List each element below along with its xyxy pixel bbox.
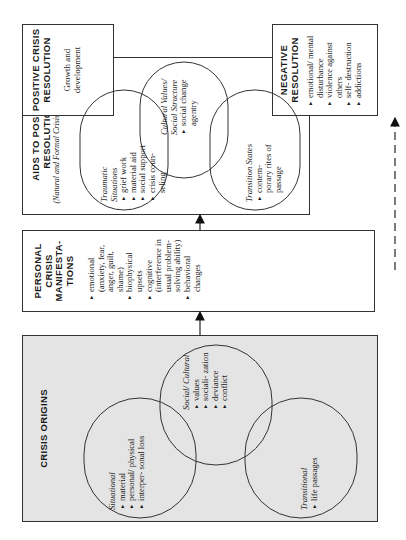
traumatic-label: Traumatic Situations bbox=[100, 144, 119, 202]
list-item: crisis coun- seling bbox=[148, 144, 167, 202]
diagram-shapes bbox=[0, 0, 406, 540]
transitional-list: life passages bbox=[310, 440, 320, 510]
dashed-arrow-to-negative bbox=[391, 118, 399, 270]
list-item: social change agentry bbox=[179, 75, 198, 135]
social-cultural-group: Social/ Cultural values sociali- zation … bbox=[182, 350, 230, 410]
list-item: contem- porary rites of passage bbox=[255, 142, 284, 202]
cultural-label: Cultural Values/ Social Structure bbox=[160, 75, 179, 135]
traumatic-list: grief work material aid social support c… bbox=[119, 144, 167, 202]
transition-states-group: Transition States contem- porary rites o… bbox=[245, 142, 283, 202]
transitional-group: Transitional life passages bbox=[300, 440, 319, 510]
situational-list: material personal/ physical interper- so… bbox=[118, 430, 147, 510]
transition-states-list: contem- porary rites of passage bbox=[255, 142, 284, 202]
list-item: conflict bbox=[220, 350, 230, 410]
cultural-group: Cultural Values/ Social Structure social… bbox=[160, 75, 198, 135]
list-item: life passages bbox=[310, 440, 320, 510]
cultural-list: social change agentry bbox=[179, 75, 198, 135]
crisis-paradigm-diagram: CRISIS ORIGINS PERSONAL CRISIS MANIFESTA… bbox=[0, 0, 406, 540]
list-item: interper- sonal loss bbox=[137, 430, 147, 510]
social-cultural-list: values sociali- zation deviance conflict bbox=[192, 350, 230, 410]
situational-group: Situational material personal/ physical … bbox=[108, 430, 146, 510]
traumatic-group: Traumatic Situations grief work material… bbox=[100, 144, 167, 202]
